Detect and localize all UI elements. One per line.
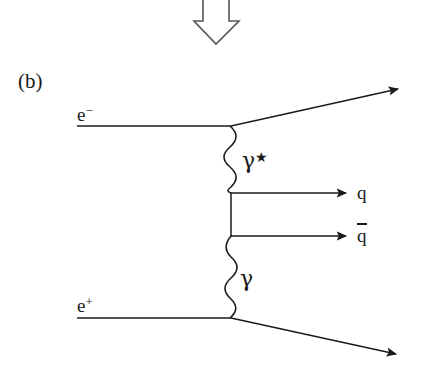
- antiquark-symbol: q: [357, 226, 367, 245]
- virtual-star-symbol: ★: [255, 149, 268, 165]
- outgoing-electron-line: [231, 89, 398, 126]
- electron-charge-sign: −: [85, 103, 92, 118]
- feynman-diagram-figure: (b) e− γ★ q q γ e+: [0, 0, 427, 377]
- photon-wavy-line: [225, 236, 237, 318]
- photon-label: γ: [240, 268, 253, 290]
- incoming-electron-label: e−: [77, 103, 93, 124]
- positron-charge-sign: +: [85, 294, 92, 309]
- quark-label: q: [357, 183, 367, 202]
- virtual-photon-label: γ★: [242, 148, 268, 172]
- down-block-arrow-icon: [194, 0, 239, 44]
- gamma-symbol: γ: [242, 148, 255, 173]
- outgoing-positron-line: [231, 318, 396, 354]
- panel-label: (b): [18, 71, 43, 92]
- antiquark-label: q: [357, 226, 367, 245]
- virtual-photon-wavy-line: [224, 126, 236, 193]
- incoming-positron-label: e+: [77, 294, 93, 315]
